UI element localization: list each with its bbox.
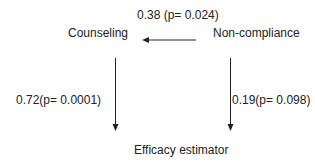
diagram-arrows	[0, 0, 315, 162]
arrow-noncompliance-to-counseling	[142, 37, 196, 43]
edge-label-counseling-efficacy: 0.72(p= 0.0001)	[16, 93, 101, 107]
node-non-compliance: Non-compliance	[213, 26, 300, 40]
edge-label-noncompliance-counseling: 0.38 (p= 0.024)	[137, 8, 219, 22]
edge-label-noncompliance-efficacy: 0.19(p= 0.098)	[232, 93, 310, 107]
arrow-counseling-to-efficacy	[113, 58, 119, 131]
node-efficacy-estimator: Efficacy estimator	[134, 143, 228, 157]
node-counseling: Counseling	[68, 26, 128, 40]
